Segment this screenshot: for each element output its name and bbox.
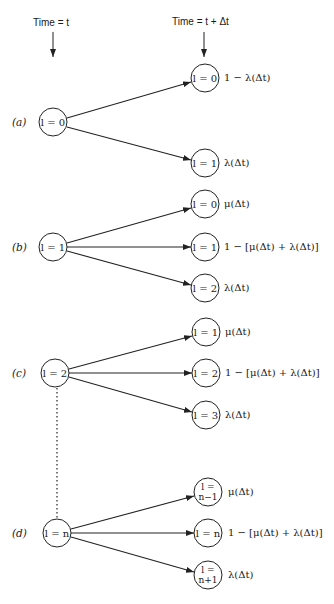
edge-c-3 xyxy=(69,377,192,412)
prob-d-1: 1 − [μ(Δt) + λ(Δt)] xyxy=(228,528,323,538)
prob-b-1: 1 − [μ(Δt) + λ(Δt)] xyxy=(224,242,319,252)
prob-b-0: μ(Δt) xyxy=(224,199,250,209)
node-c-t3-label: l = 3 xyxy=(192,401,220,429)
case-c-label: (c) xyxy=(12,368,26,379)
node-d-tn-label: l = n xyxy=(194,519,222,547)
case-a-label: (a) xyxy=(12,117,26,128)
edge-a-1 xyxy=(67,127,191,160)
node-b-t1-label: l = 1 xyxy=(191,233,219,261)
prob-c-1: 1 − [μ(Δt) + λ(Δt)] xyxy=(225,368,320,378)
prob-d-0: μ(Δt) xyxy=(228,487,254,497)
prob-d-2: λ(Δt) xyxy=(228,570,253,580)
node-d-tnm1-label: l = n−1 xyxy=(194,478,222,506)
edge-b-2 xyxy=(67,251,191,285)
edge-d-nm1 xyxy=(71,496,194,529)
prob-b-2: λ(Δt) xyxy=(224,283,249,293)
edge-b-0 xyxy=(67,208,191,243)
node-b-source-label: l = 1 xyxy=(39,233,67,261)
prob-a-1: λ(Δt) xyxy=(224,158,249,168)
node-d-tnm1-line2: n−1 xyxy=(198,492,217,502)
prob-c-0: μ(Δt) xyxy=(225,327,251,337)
node-c-t2-label: l = 2 xyxy=(192,359,220,387)
time-t-dt-label: Time = t + Δt xyxy=(172,17,229,27)
node-b-t0-label: l = 0 xyxy=(191,190,219,218)
case-d-label: (d) xyxy=(12,528,27,539)
time-t-label: Time = t xyxy=(33,18,69,28)
node-d-tnm1-line1: l = xyxy=(201,482,214,492)
node-d-tnp1-line1: l = xyxy=(201,565,214,575)
node-a-source-label: l = 0 xyxy=(39,108,67,136)
case-b-label: (b) xyxy=(12,242,27,253)
node-a-t0-label: l = 0 xyxy=(191,64,219,92)
edge-a-0 xyxy=(67,82,191,118)
node-d-source-label: l = n xyxy=(43,519,71,547)
node-d-tnp1-label: l = n+1 xyxy=(194,561,222,589)
node-c-t1-label: l = 1 xyxy=(192,318,220,346)
state-transition-diagram xyxy=(0,0,334,604)
node-a-t1-label: l = 1 xyxy=(191,149,219,177)
prob-c-2: λ(Δt) xyxy=(225,410,250,420)
prob-a-0: 1 − λ(Δt) xyxy=(224,73,270,83)
edge-c-1 xyxy=(69,336,192,369)
edge-d-np1 xyxy=(71,537,194,572)
node-d-tnp1-line2: n+1 xyxy=(198,575,217,585)
node-c-source-label: l = 2 xyxy=(41,359,69,387)
node-b-t2-label: l = 2 xyxy=(191,274,219,302)
